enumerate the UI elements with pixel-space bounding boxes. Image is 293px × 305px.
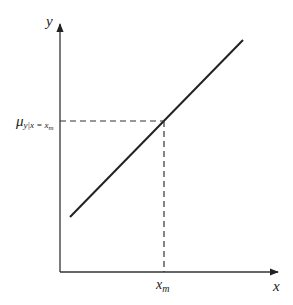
mu-label: μy|x = xm (15, 113, 54, 132)
xm-label: xm (155, 277, 169, 294)
x-axis-label: x (272, 278, 280, 294)
regression-diagram: y x xm μy|x = xm (0, 0, 293, 305)
regression-line (70, 40, 243, 217)
y-axis-label: y (44, 13, 53, 29)
